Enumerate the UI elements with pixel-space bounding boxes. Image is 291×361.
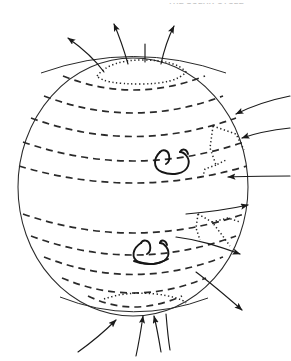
north-polar-cap <box>97 60 186 84</box>
latitude-lines-north <box>19 76 247 183</box>
north-cap-solid-rim <box>41 57 226 74</box>
solar-cycle-diagram <box>0 0 291 361</box>
south-equatorial-flux-loop <box>133 241 168 265</box>
field-arrows-north-outward <box>68 24 174 72</box>
right-lower-dotted-boundary <box>196 214 240 246</box>
figure-root: THE SOLAR CYCLE <box>0 0 291 361</box>
field-arrows-south-inward <box>78 314 170 356</box>
south-polar-cap <box>104 293 186 303</box>
sphere-outline <box>18 58 248 316</box>
north-equatorial-flux-loop <box>155 150 189 174</box>
south-cap-solid-rim <box>60 297 208 312</box>
field-arrows-right-outward <box>176 205 248 310</box>
